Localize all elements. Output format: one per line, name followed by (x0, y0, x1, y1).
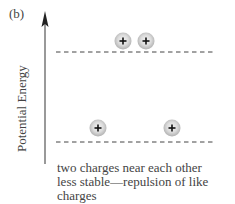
caption: two charges near each other less stable—… (57, 161, 235, 203)
charge-high-1 (115, 33, 132, 50)
charge-low-2 (164, 120, 181, 137)
caption-line-3: charges (57, 189, 235, 203)
charge-low-1 (90, 120, 107, 137)
charge-high-2 (138, 33, 155, 50)
potential-energy-axis-arrow (42, 11, 49, 164)
axis-label: Potential Energy (14, 65, 30, 152)
caption-line-1: two charges near each other (57, 161, 235, 175)
caption-line-2: less stable—repulsion of like (57, 175, 235, 189)
